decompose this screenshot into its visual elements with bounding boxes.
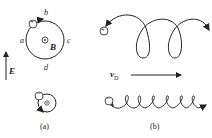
label-b: b — [44, 9, 48, 17]
caption-a: (a) — [40, 123, 49, 131]
small-particle-sign-a: − — [37, 91, 41, 98]
big-particle-sign-b: + — [101, 27, 105, 34]
b-field-label: B — [50, 43, 56, 52]
b-field-out-icon — [42, 37, 48, 43]
e-field-label: E — [9, 67, 15, 76]
large-helix — [106, 15, 209, 58]
small-helix — [110, 95, 206, 108]
label-c: c — [67, 37, 71, 45]
small-particle-sign-b: − — [106, 96, 110, 103]
caption-b: (b) — [150, 123, 159, 131]
label-a: a — [20, 37, 24, 45]
big-particle-sign-a: + — [30, 19, 34, 26]
label-d: d — [44, 64, 48, 72]
drift-velocity-label: vD — [110, 70, 118, 81]
